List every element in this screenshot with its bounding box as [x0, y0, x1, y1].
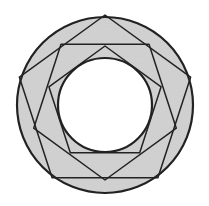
diagram-canvas	[0, 0, 209, 206]
inner-circle	[58, 58, 152, 152]
annulus-pentagon-diagram	[0, 0, 209, 206]
